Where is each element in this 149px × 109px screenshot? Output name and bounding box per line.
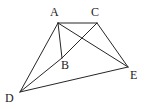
- vertex-label-e: E: [130, 69, 137, 81]
- geometry-figure: ACBDE: [0, 0, 149, 109]
- vertex-label-a: A: [50, 6, 59, 18]
- vertex-label-b: B: [61, 59, 69, 71]
- vertex-label-d: D: [5, 92, 14, 104]
- geometry-canvas: [0, 0, 149, 109]
- edge-ab: [58, 23, 62, 58]
- vertex-label-c: C: [91, 6, 99, 18]
- edge-ce: [97, 23, 128, 67]
- edge-group: [20, 23, 128, 92]
- edge-ad: [20, 23, 58, 92]
